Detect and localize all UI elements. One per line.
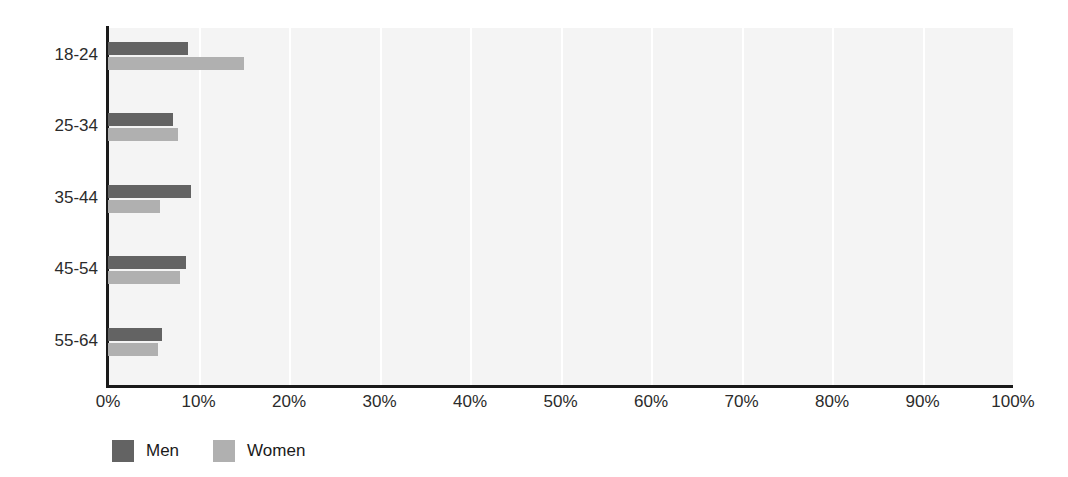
bar-35-44-women [108, 200, 160, 213]
legend-item-men[interactable]: Men [112, 440, 179, 462]
x-axis-tick-label: 60% [611, 392, 691, 412]
gridline [470, 28, 472, 385]
category-label-45-54: 45-54 [0, 259, 98, 279]
category-label-55-64: 55-64 [0, 331, 98, 351]
x-axis-tick-label: 30% [340, 392, 420, 412]
plot-area [108, 28, 1013, 385]
gridline [380, 28, 382, 385]
gridline [742, 28, 744, 385]
category-label-25-34: 25-34 [0, 116, 98, 136]
x-axis-tick-label: 90% [883, 392, 963, 412]
gridline [199, 28, 201, 385]
gridline [832, 28, 834, 385]
bar-25-34-women [108, 128, 178, 141]
gridline [1013, 28, 1015, 385]
legend-label-women: Women [247, 441, 305, 461]
bar-chart: 18-2425-3435-4445-5455-64 0%10%20%30%40%… [0, 0, 1068, 477]
bar-25-34-men [108, 113, 173, 126]
gridline [561, 28, 563, 385]
x-axis-tick-label: 40% [430, 392, 510, 412]
bar-45-54-men [108, 256, 186, 269]
legend-item-women[interactable]: Women [213, 440, 305, 462]
x-axis-tick-label: 0% [68, 392, 148, 412]
legend: Men Women [112, 440, 305, 462]
x-axis-tick-label: 80% [792, 392, 872, 412]
gridline [923, 28, 925, 385]
legend-swatch-women-icon [213, 440, 235, 462]
category-label-18-24: 18-24 [0, 45, 98, 65]
bar-55-64-men [108, 328, 162, 341]
bar-55-64-women [108, 343, 158, 356]
gridline [651, 28, 653, 385]
x-axis-tick-label: 20% [249, 392, 329, 412]
bar-45-54-women [108, 271, 180, 284]
x-axis-tick-label: 70% [702, 392, 782, 412]
x-axis-tick-label: 50% [521, 392, 601, 412]
x-axis-line [106, 385, 1013, 388]
gridline [289, 28, 291, 385]
x-axis-tick-label: 10% [159, 392, 239, 412]
legend-swatch-men-icon [112, 440, 134, 462]
x-axis-tick-label: 100% [973, 392, 1053, 412]
bar-18-24-men [108, 42, 188, 55]
legend-label-men: Men [146, 441, 179, 461]
bar-18-24-women [108, 57, 244, 70]
category-label-35-44: 35-44 [0, 188, 98, 208]
bar-35-44-men [108, 185, 191, 198]
